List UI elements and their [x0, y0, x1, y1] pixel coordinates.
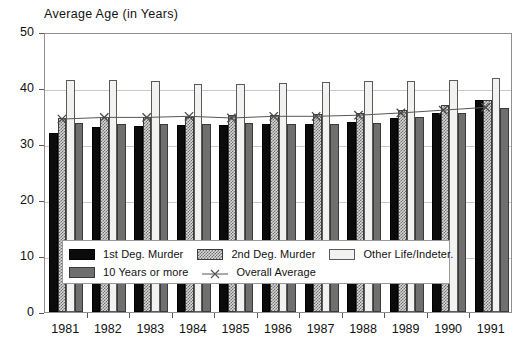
x-tick-mark	[257, 313, 258, 318]
y-tick-label: 30	[0, 137, 34, 151]
legend-label: 1st Deg. Murder	[103, 248, 183, 260]
x-tick-label: 1991	[461, 322, 521, 336]
x-tick-mark	[299, 313, 300, 318]
x-tick-mark	[129, 313, 130, 318]
line-x-marker-swatch-icon	[202, 266, 228, 278]
legend-label: 10 Years or more	[103, 266, 188, 278]
x-tick-mark	[427, 313, 428, 318]
x-tick-mark	[87, 313, 88, 318]
white-swatch-icon	[329, 249, 355, 260]
legend-label: 2nd Deg. Murder	[231, 248, 315, 260]
legend-item-other-life: Other Life/Indeter.	[329, 248, 453, 260]
legend-label: Other Life/Indeter.	[363, 248, 453, 260]
chart-figure: Average Age (in Years) 01020304050 19811…	[0, 0, 525, 356]
legend-item-2nd-deg-murder: 2nd Deg. Murder	[197, 248, 315, 260]
legend-row-1: 1st Deg. Murder 2nd Deg. Murder Other Li…	[69, 245, 443, 263]
y-tick-label: 40	[0, 81, 34, 95]
legend-item-10-years-or-more: 10 Years or more	[69, 266, 188, 278]
black-solid-swatch-icon	[69, 249, 95, 260]
y-tick-label: 10	[0, 249, 34, 263]
y-tick-label: 0	[0, 305, 34, 319]
x-tick-mark	[172, 313, 173, 318]
legend-item-1st-deg-murder: 1st Deg. Murder	[69, 248, 183, 260]
hatched-gray-swatch-icon	[197, 249, 223, 260]
x-tick-mark	[384, 313, 385, 318]
y-tick-mark	[39, 313, 44, 314]
x-tick-mark	[214, 313, 215, 318]
legend-item-overall-average: Overall Average	[202, 266, 316, 278]
overall-average-polyline	[62, 107, 486, 119]
y-tick-label: 20	[0, 193, 34, 207]
y-axis-title: Average Age (in Years)	[44, 7, 178, 21]
chart-legend: 1st Deg. Murder 2nd Deg. Murder Other Li…	[62, 240, 450, 284]
legend-label: Overall Average	[236, 266, 316, 278]
y-tick-label: 50	[0, 25, 34, 39]
legend-row-2: 10 Years or more Overall Average	[69, 263, 443, 281]
x-tick-mark	[342, 313, 343, 318]
x-tick-mark	[469, 313, 470, 318]
dark-gray-swatch-icon	[69, 267, 95, 278]
